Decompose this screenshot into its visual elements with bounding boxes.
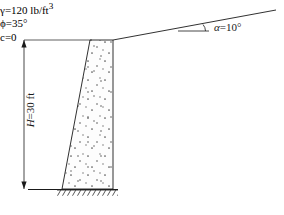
height-value: 30 [24, 102, 36, 113]
height-equals: = [24, 113, 36, 119]
alpha-value: 10 [226, 21, 237, 33]
retaining-wall-body [62, 40, 113, 189]
height-symbol: H [24, 119, 36, 127]
retaining-wall-figure: α=10° H=30 ft γ=120 lb/ft3 ϕ=35° c=0 [0, 0, 284, 215]
wall-height-label: H=30 ft [24, 70, 36, 150]
height-unit: ft [24, 93, 36, 100]
degree-icon: ° [237, 21, 241, 33]
backfill-slope-line [113, 10, 276, 40]
ground-line [28, 190, 118, 196]
backfill-slope-angle-label: α=10° [214, 21, 241, 33]
